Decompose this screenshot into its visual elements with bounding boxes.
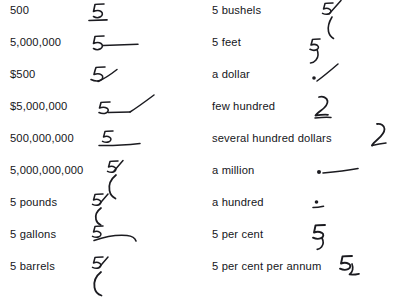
list-item: 5 pounds [0,196,200,228]
list-item: a million [201,164,401,196]
list-item: a dollar [201,68,401,100]
entry-label: several hundred dollars [212,132,332,145]
list-item: 5,000,000 [0,36,200,68]
entry-label: 5 barrels [10,260,55,273]
list-item: $5,000,000 [0,100,200,132]
list-item: several hundred dollars [201,132,401,164]
list-item: 500,000,000 [0,132,200,164]
five-underscored-outline [80,0,200,39]
list-item: 5 feet [201,36,401,68]
left-column: 500 5,000,000 $500 [0,0,200,301]
entry-label: a million [212,164,254,177]
list-item: 500 [0,4,200,36]
right-column: 5 bushels 5 feet a dollar [201,0,401,301]
entry-label: $5,000,000 [10,100,68,113]
list-item: 5 gallons [0,228,200,260]
entry-label: few hundred [212,100,275,113]
list-item: a hundred [201,196,401,228]
entry-label: 500 [10,4,29,17]
entry-label: 5 per cent per annum [212,260,321,273]
list-item: 5 per cent per annum [201,260,401,292]
entry-label: 500,000,000 [10,132,74,145]
list-item: 5 bushels [201,4,401,36]
entry-label: $500 [10,68,36,81]
entry-label: 5,000,000 [10,36,61,49]
list-item: 5,000,000,000 [0,164,200,196]
shorthand-reference-page: 500 5,000,000 $500 [0,0,401,301]
entry-label: a hundred [212,196,264,209]
list-item: $500 [0,68,200,100]
entry-label: a dollar [212,68,250,81]
entry-label: 5,000,000,000 [10,164,84,177]
entry-label: 5 per cent [212,228,263,241]
entry-label: 5 pounds [10,196,57,209]
entry-label: 5 feet [212,36,241,49]
five-with-long-downstroke-outline [301,0,401,39]
list-item: 5 per cent [201,228,401,260]
entry-label: 5 bushels [212,4,261,17]
list-item: 5 barrels [0,260,200,292]
entry-label: 5 gallons [10,228,56,241]
list-item: few hundred [201,100,401,132]
